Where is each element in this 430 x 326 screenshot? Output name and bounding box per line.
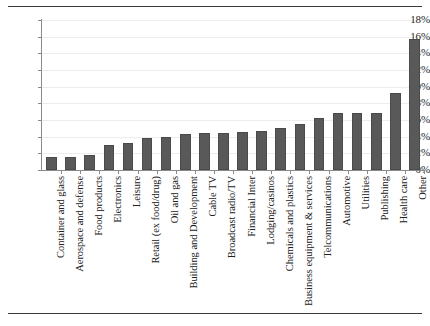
x-tick-mark — [329, 170, 330, 174]
bar — [104, 145, 115, 170]
x-tick-mark — [176, 170, 177, 174]
x-tick-mark — [99, 170, 100, 174]
bar — [199, 133, 210, 170]
x-tick-mark — [118, 170, 119, 174]
bar — [65, 157, 76, 170]
bar — [390, 93, 401, 170]
x-category-label: Electronics — [113, 176, 124, 223]
x-tick-mark — [252, 170, 253, 174]
x-tick-mark — [195, 170, 196, 174]
x-category-label: Broadcast radio/TV — [227, 176, 238, 258]
bar — [352, 113, 363, 170]
bar — [314, 118, 325, 170]
x-tick-mark — [61, 170, 62, 174]
x-tick-mark — [405, 170, 406, 174]
x-category-label: Container and glass — [56, 176, 67, 258]
x-category-label: Leisure — [132, 176, 143, 207]
bar — [275, 128, 286, 170]
bar — [123, 143, 134, 171]
bar — [46, 157, 57, 170]
x-tick-mark — [309, 170, 310, 174]
bar — [142, 138, 153, 170]
x-category-label: Health care — [399, 176, 410, 224]
x-category-label: Aerospace and defense — [75, 176, 86, 272]
x-category-label: Retail (ex food/drug) — [151, 176, 162, 264]
x-tick-mark — [138, 170, 139, 174]
x-tick-mark — [386, 170, 387, 174]
x-category-label: Building and Development — [189, 176, 200, 289]
x-tick-mark — [290, 170, 291, 174]
chart-figure: 0%2%4%6%8%10%12%14%16%18% Container and … — [0, 0, 430, 326]
x-tick-mark — [271, 170, 272, 174]
x-category-label: Automotive — [342, 176, 353, 226]
x-tick-mark — [424, 170, 425, 174]
x-tick-mark — [214, 170, 215, 174]
bar — [409, 39, 420, 170]
x-category-label: Oil and gas — [170, 176, 181, 223]
bar — [161, 137, 172, 170]
x-tick-mark — [157, 170, 158, 174]
x-category-label: Publishing — [380, 176, 391, 220]
x-category-label: Cable TV — [208, 176, 219, 217]
x-category-label: Telcommunications — [323, 176, 334, 258]
x-category-label: Chemicals and plastics — [285, 176, 296, 271]
x-category-label: Other — [418, 176, 429, 200]
x-tick-mark — [80, 170, 81, 174]
bar — [256, 131, 267, 170]
bar — [84, 155, 95, 170]
bar — [218, 133, 229, 171]
bar — [295, 124, 306, 170]
bar — [180, 134, 191, 170]
x-tick-mark — [367, 170, 368, 174]
plot-area — [42, 20, 424, 170]
bar — [237, 132, 248, 170]
x-tick-mark — [348, 170, 349, 174]
top-rule — [8, 6, 422, 7]
bar — [371, 113, 382, 170]
x-category-label: Utilities — [361, 176, 372, 209]
x-category-label: Lodging/casinos — [266, 176, 277, 245]
x-category-label: Business equipment & services — [304, 176, 315, 306]
bottom-rule — [8, 313, 422, 314]
x-tick-mark — [233, 170, 234, 174]
x-category-label: Food products — [94, 176, 105, 236]
bar — [333, 113, 344, 170]
x-category-label: Financial Inter — [247, 176, 258, 237]
